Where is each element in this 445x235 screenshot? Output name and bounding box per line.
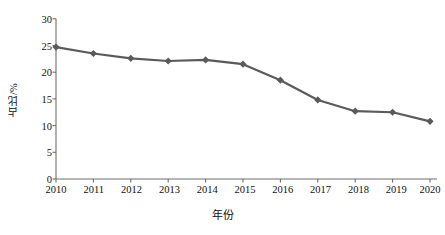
- data-point: [127, 55, 134, 62]
- data-point: [239, 61, 246, 68]
- data-point: [426, 118, 433, 125]
- data-point: [352, 108, 359, 115]
- axis-lines: [56, 19, 437, 179]
- data-point: [202, 56, 209, 63]
- data-point: [165, 57, 172, 64]
- data-point: [90, 50, 97, 57]
- data-point: [389, 109, 396, 116]
- plot-area: [0, 0, 445, 235]
- line-chart: 占比/% 0 5 10 15 20 25 30 2010 2011 2012 2…: [0, 0, 445, 235]
- data-point: [52, 44, 59, 51]
- data-line: [56, 47, 430, 121]
